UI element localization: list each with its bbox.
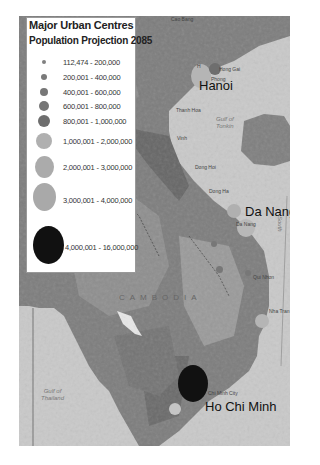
legend-symbol-icon [36, 133, 52, 149]
hcmc-small-label: Chi Minh City [208, 390, 238, 396]
legend-symbol-icon [38, 115, 50, 127]
legend-label: 112,474 - 200,000 [63, 58, 120, 67]
can-tho-symbol[interactable] [169, 403, 181, 415]
legend-label: 600,001 - 800,000 [63, 102, 121, 111]
qui-nhon-symbol[interactable] [245, 270, 251, 276]
hong-gai-label: Hong Gai [219, 66, 240, 72]
nha-trang-symbol[interactable] [255, 314, 269, 328]
dong-ha-symbol[interactable] [227, 204, 241, 218]
legend-symbol-icon [42, 60, 46, 64]
legend-symbol-icon [33, 183, 56, 211]
da-nang-small-label: Da Nang [236, 221, 256, 227]
legend-symbol-icon [41, 74, 47, 80]
inland-city-symbol[interactable] [211, 241, 217, 247]
da-nang-label: Da Nang [245, 204, 290, 219]
cambodia-label: CAMBODIA [119, 293, 202, 302]
nha-trang-label: Nha Tran [269, 308, 290, 314]
legend-label: 3,000,001 - 4,000,000 [63, 196, 132, 205]
gulf-of-thailand-label: Gulf ofThailand [41, 388, 64, 402]
dong-ha-label: Dong Ha [209, 188, 229, 194]
dong-hoi-label: Dong Hoi [195, 164, 216, 170]
ho-chi-minh-symbol[interactable] [178, 365, 208, 402]
vinh-label: Vinh [177, 135, 187, 141]
thanh-hoa-label: Thanh Hoa [176, 107, 201, 113]
legend-symbol-icon [40, 88, 48, 96]
legend-label: 2,000,001 - 3,000,000 [63, 163, 132, 172]
cao-bang-label: Cao Bang [171, 16, 193, 22]
legend-subtitle: Population Projection 2085 [29, 35, 152, 46]
legend-label: 1,000,001 - 2,000,000 [63, 137, 132, 146]
ho-chi-minh-label: Ho Chi Minh [205, 399, 277, 414]
legend: Major Urban Centres Population Projectio… [26, 17, 136, 273]
gulf-of-tonkin-label: Gulf ofTonkin [216, 116, 234, 130]
qui-nhon-label: Qui Nhon [253, 274, 274, 280]
hanoi-label: Hanoi [199, 78, 233, 93]
legend-title: Major Urban Centres [29, 19, 133, 31]
legend-symbol-icon [35, 156, 54, 178]
legend-label: 4,000,001 - 16,000,000 [65, 243, 138, 252]
legend-label: 800,001 - 1,000,000 [63, 117, 126, 126]
inland-city-symbol-2[interactable] [216, 266, 223, 273]
legend-symbol-icon [33, 226, 64, 264]
legend-label: 400,001 - 600,000 [63, 88, 121, 97]
legend-label: 200,001 - 400,000 [63, 73, 121, 82]
h-label: H [197, 63, 201, 69]
legend-symbol-icon [39, 101, 49, 111]
